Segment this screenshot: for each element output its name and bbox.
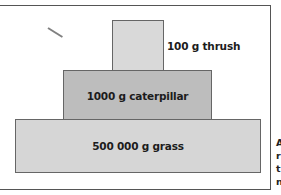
- caption-line: r: [276, 149, 281, 162]
- thrush-label: 100 g thrush: [167, 40, 240, 52]
- pyramid-level-thrush: [112, 20, 164, 71]
- grass-label: 500 000 g grass: [92, 140, 184, 152]
- pyramid-level-grass: 500 000 g grass: [15, 119, 261, 173]
- caption-line: A: [276, 136, 281, 149]
- caption-fragment: A r t n: [276, 136, 281, 188]
- caterpillar-label: 1000 g caterpillar: [87, 90, 189, 102]
- caption-line: t: [276, 162, 281, 175]
- pyramid-level-caterpillar: 1000 g caterpillar: [63, 70, 212, 121]
- caption-line: n: [276, 175, 281, 188]
